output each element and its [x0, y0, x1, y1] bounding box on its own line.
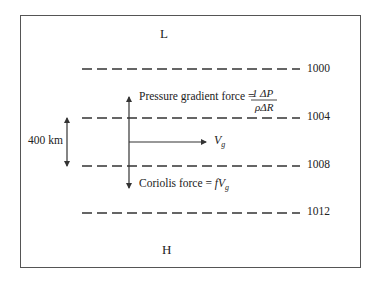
isobar-label-1004: 1004	[307, 110, 330, 122]
coriolis-text: Coriolis force =	[139, 177, 215, 189]
isobar-label-1008: 1008	[307, 158, 330, 170]
pressure-gradient-text: Pressure gradient force =	[139, 90, 254, 102]
formula-denominator: ρΔR	[255, 101, 273, 113]
wind-label: Vg	[214, 133, 225, 149]
formula-numerator: 1 ΔP	[252, 87, 273, 99]
isobar-label-1000: 1000	[307, 62, 330, 74]
high-pressure-label: H	[162, 242, 171, 258]
coriolis-formula: fV	[215, 177, 225, 189]
distance-label: 400 km	[28, 134, 63, 146]
isobar-label-1012: 1012	[307, 205, 330, 217]
coriolis-subscript: g	[225, 183, 229, 192]
pressure-gradient-label: Pressure gradient force =	[139, 90, 254, 102]
wind-subscript: g	[221, 140, 225, 149]
coriolis-label: Coriolis force = fVg	[139, 177, 229, 192]
low-pressure-label: L	[160, 26, 168, 42]
